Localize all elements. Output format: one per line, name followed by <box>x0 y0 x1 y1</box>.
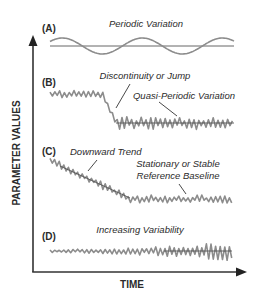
panel-c: (C) Downward Trend Stationary or Stable … <box>42 146 232 203</box>
panel-a-letter: (A) <box>42 23 56 34</box>
panel-d-letter: (D) <box>42 231 56 242</box>
panel-c-letter: (C) <box>42 146 56 157</box>
y-axis-arrow-icon <box>29 35 38 46</box>
panel-b-quasi-periodic-leader <box>159 102 177 116</box>
time-series-patterns-diagram: PARAMETER VALUES TIME (A) Periodic Varia… <box>0 0 256 300</box>
panel-a: (A) Periodic Variation <box>42 18 234 54</box>
panel-c-annotation-trend: Downward Trend <box>70 146 142 157</box>
panel-b-letter: (B) <box>42 77 56 88</box>
panel-d: (D) Increasing Variability <box>42 224 232 260</box>
panel-c-trend-line <box>60 166 130 198</box>
panel-c-trend-leader <box>88 160 97 171</box>
panel-c-baseline-leader <box>179 184 186 194</box>
y-axis-label: PARAMETER VALUES <box>11 100 22 206</box>
panel-b-annotation-quasi-periodic: Quasi-Periodic Variation <box>133 90 235 101</box>
panel-b-annotation-jump: Discontinuity or Jump <box>100 70 191 81</box>
panel-b-jump-leader <box>116 84 130 108</box>
panel-b: (B) Discontinuity or Jump Quasi-Periodic… <box>42 70 235 129</box>
panel-a-annotation-periodic: Periodic Variation <box>109 18 183 29</box>
x-axis-label: TIME <box>120 279 144 290</box>
x-axis-arrow-icon <box>236 268 247 277</box>
panel-d-variability-series <box>50 244 232 260</box>
panel-d-annotation-variability: Increasing Variability <box>96 224 185 235</box>
panel-c-annotation-baseline: Reference Baseline <box>137 170 220 181</box>
panel-c-annotation-stationary: Stationary or Stable <box>136 158 219 169</box>
